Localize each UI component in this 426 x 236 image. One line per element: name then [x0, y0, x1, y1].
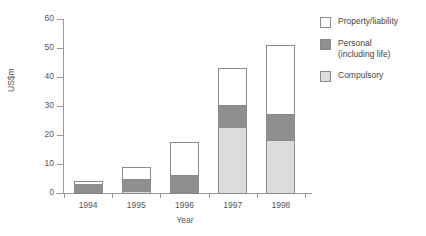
- x-axis-tick-label: 1997: [213, 200, 253, 210]
- y-axis-tick-label: 20: [30, 130, 54, 139]
- bar-segment-compulsory[interactable]: [266, 140, 295, 194]
- y-axis-tick: [57, 164, 63, 165]
- bar-segment-compulsory[interactable]: [218, 127, 247, 194]
- bar-segment-personal[interactable]: [218, 105, 247, 128]
- bar-segment-property[interactable]: [266, 45, 295, 115]
- x-axis-tick: [64, 193, 65, 198]
- bar-segment-personal[interactable]: [74, 184, 103, 194]
- x-axis-tick: [257, 193, 258, 198]
- bar-1995[interactable]: [122, 167, 151, 193]
- x-axis-tick: [160, 193, 161, 198]
- bar-segment-personal[interactable]: [266, 114, 295, 141]
- x-axis-tick: [305, 193, 306, 198]
- bar-1996[interactable]: [170, 142, 199, 193]
- bar-1997[interactable]: [218, 68, 247, 193]
- bar-segment-compulsory[interactable]: [122, 191, 151, 194]
- x-axis-tick-label: 1994: [68, 200, 108, 210]
- y-axis-tick-label: 60: [30, 14, 54, 23]
- y-axis-tick: [57, 77, 63, 78]
- legend-swatch-personal: [320, 39, 331, 50]
- bar-chart: US$m 0102030405060 19941995199619971998 …: [0, 0, 426, 236]
- y-axis-tick: [57, 48, 63, 49]
- bar-segment-property[interactable]: [218, 68, 247, 106]
- y-axis-tick-label: 50: [30, 43, 54, 52]
- bar-1998[interactable]: [266, 45, 295, 193]
- bar-segment-property[interactable]: [170, 142, 199, 175]
- bar-segment-personal[interactable]: [170, 175, 199, 193]
- chart-legend: Property/liabilityPersonal (including li…: [320, 16, 426, 92]
- x-axis-title: Year: [0, 215, 370, 225]
- y-axis-title: US$m: [6, 68, 16, 92]
- plot-area: [64, 19, 305, 193]
- legend-item[interactable]: Compulsory: [320, 70, 426, 82]
- x-axis-tick: [209, 193, 210, 198]
- x-axis-tick-label: 1995: [116, 200, 156, 210]
- x-axis-tick-label: 1996: [165, 200, 205, 210]
- legend-item-label: Personal (including life): [338, 38, 390, 60]
- legend-item-label: Property/liability: [338, 16, 398, 27]
- bar-segment-compulsory[interactable]: [170, 192, 199, 194]
- y-axis-tick-label: 40: [30, 72, 54, 81]
- y-axis-tick: [57, 19, 63, 20]
- legend-item[interactable]: Property/liability: [320, 16, 426, 28]
- x-axis-tick: [112, 193, 113, 198]
- legend-item[interactable]: Personal (including life): [320, 38, 426, 60]
- legend-item-label: Compulsory: [338, 70, 383, 81]
- bar-1994[interactable]: [74, 181, 103, 193]
- y-axis-tick: [57, 135, 63, 136]
- legend-swatch-compulsory: [320, 71, 331, 82]
- y-axis-tick: [57, 106, 63, 107]
- y-axis-tick-label: 0: [30, 188, 54, 197]
- legend-swatch-property-liability: [320, 17, 331, 28]
- x-axis-tick-label: 1998: [261, 200, 301, 210]
- y-axis-tick-label: 30: [30, 101, 54, 110]
- y-axis-tick-label: 10: [30, 159, 54, 168]
